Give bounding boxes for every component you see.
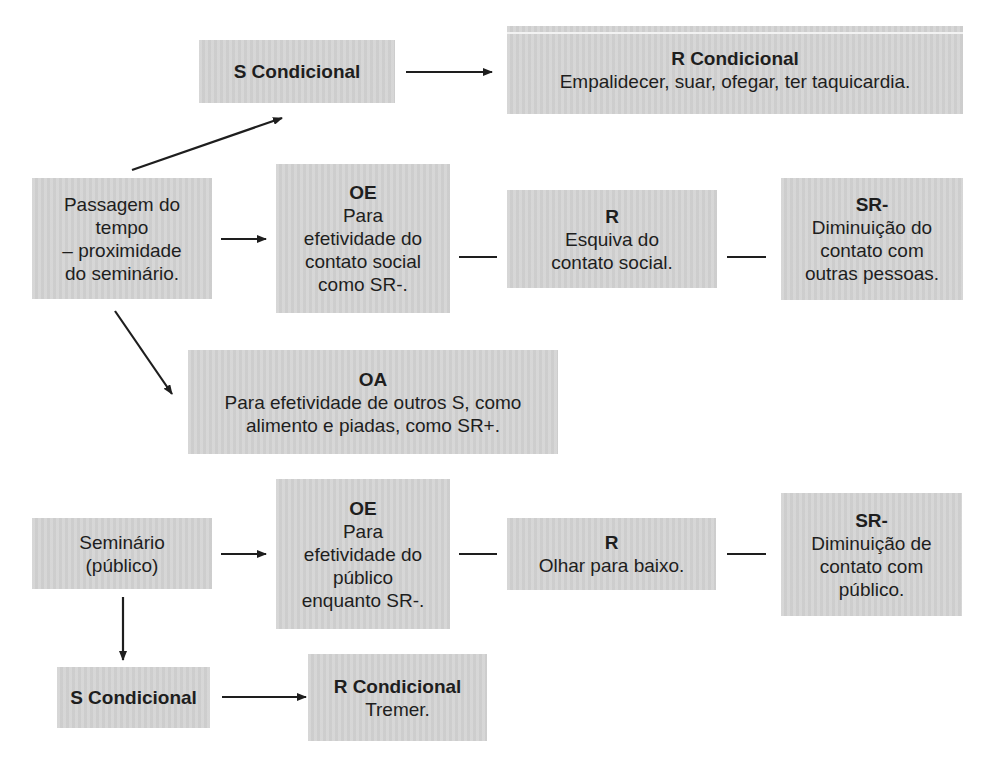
node-body: Diminuição de contato com público.	[811, 532, 931, 601]
node-passagem-do-tempo: Passagem do tempo – proximidade do semin…	[32, 178, 212, 299]
arrow-passagem-to-oa	[115, 311, 172, 394]
node-sr-top: SR- Diminuição do contato com outras pes…	[781, 178, 963, 300]
node-title: S Condicional	[70, 686, 197, 709]
node-title: OE	[349, 181, 376, 204]
node-body: Seminário (público)	[79, 531, 165, 577]
node-title: OE	[349, 497, 376, 520]
node-body: Para efetividade do público enquanto SR-…	[302, 520, 425, 612]
decorative-line	[507, 32, 963, 34]
node-body: Tremer.	[365, 698, 430, 721]
node-s-condicional-top: S Condicional	[199, 40, 395, 103]
node-body: Passagem do tempo – proximidade do semin…	[62, 193, 181, 285]
node-seminario: Seminário (público)	[32, 518, 212, 589]
node-title: R Condicional	[671, 47, 799, 70]
node-r-olhar: R Olhar para baixo.	[507, 518, 716, 590]
node-body: Esquiva do contato social.	[551, 228, 672, 274]
node-sr-bottom: SR- Diminuição de contato com público.	[781, 493, 962, 616]
node-r-esquiva: R Esquiva do contato social.	[507, 190, 717, 288]
node-body: Olhar para baixo.	[539, 554, 685, 577]
node-title: R	[605, 531, 619, 554]
node-oe-bottom: OE Para efetividade do público enquanto …	[276, 479, 450, 629]
node-title: R Condicional	[334, 675, 462, 698]
node-s-condicional-bottom: S Condicional	[57, 667, 210, 728]
node-r-condicional-bottom: R Condicional Tremer.	[308, 654, 487, 741]
node-body: Para efetividade de outros S, como alime…	[225, 391, 522, 437]
arrow-passagem-to-s-cond-top	[132, 118, 282, 170]
node-title: S Condicional	[234, 60, 361, 83]
node-body: Diminuição do contato com outras pessoas…	[805, 216, 939, 285]
node-oe-top: OE Para efetividade do contato social co…	[276, 164, 450, 313]
node-title: OA	[359, 368, 388, 391]
node-title: SR-	[855, 509, 888, 532]
node-r-condicional-top: R Condicional Empalidecer, suar, ofegar,…	[507, 26, 963, 114]
node-title: SR-	[856, 193, 889, 216]
node-oa: OA Para efetividade de outros S, como al…	[188, 350, 558, 454]
node-body: Empalidecer, suar, ofegar, ter taquicard…	[560, 70, 911, 93]
node-title: R	[605, 205, 619, 228]
node-body: Para efetividade do contato social como …	[304, 204, 422, 296]
